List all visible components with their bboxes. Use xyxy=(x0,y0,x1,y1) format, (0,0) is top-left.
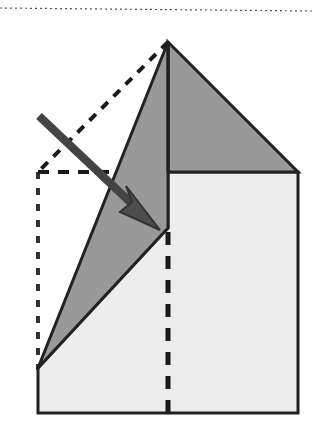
figure-container xyxy=(0,0,312,433)
fold-diagram-svg xyxy=(0,0,312,433)
